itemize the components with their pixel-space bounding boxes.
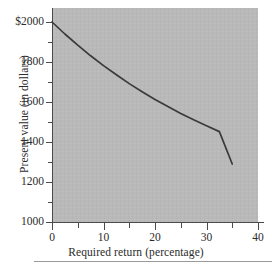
x-axis-title: Required return (percentage) xyxy=(0,246,272,258)
y-tick-label: 1000 xyxy=(0,216,44,228)
x-tick-major xyxy=(52,223,53,230)
x-tick-minor xyxy=(78,223,79,228)
x-tick-minor xyxy=(232,223,233,228)
bottom-rule xyxy=(34,261,272,262)
x-tick-major xyxy=(104,223,105,230)
x-tick-label: 30 xyxy=(192,232,222,244)
present-value-curve xyxy=(52,8,258,222)
x-tick-label: 40 xyxy=(243,232,272,244)
x-tick-major xyxy=(155,223,156,230)
x-tick-major xyxy=(258,223,259,230)
x-tick-label: 0 xyxy=(37,232,67,244)
x-tick-label: 10 xyxy=(89,232,119,244)
x-tick-minor xyxy=(129,223,130,228)
curve-line xyxy=(52,22,232,164)
y-axis-title: Present value (in dollars) xyxy=(18,24,30,204)
x-tick-label: 20 xyxy=(140,232,170,244)
present-value-chart-figure: 10001200140016001800$2000 010203040 Pres… xyxy=(0,0,272,266)
x-tick-major xyxy=(207,223,208,230)
x-tick-minor xyxy=(181,223,182,228)
